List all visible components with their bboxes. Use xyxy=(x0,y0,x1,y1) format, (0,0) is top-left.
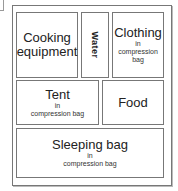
compartment-water: Water xyxy=(81,12,109,78)
compartment-sleeping-bag: Sleeping bag in compression bag xyxy=(16,128,164,178)
tent-label: Tent xyxy=(45,88,70,102)
corner-mark xyxy=(0,0,4,11)
compartment-tent: Tent in compression bag xyxy=(16,80,99,125)
sleeping-bag-label: Sleeping bag xyxy=(52,138,128,152)
tent-note-line1: in xyxy=(55,102,60,110)
cooking-label-line2: equipment xyxy=(17,45,78,59)
sleeping-bag-note-line1: in xyxy=(87,152,92,160)
compartment-cooking-equipment: Cooking equipment xyxy=(16,12,78,78)
compartment-clothing: Clothing in compression bag xyxy=(112,12,164,78)
compartment-food: Food xyxy=(102,80,164,125)
sleeping-bag-note-line2: compression bag xyxy=(63,160,116,168)
clothing-note-line1: in xyxy=(135,40,140,48)
cooking-label-line1: Cooking xyxy=(23,31,71,45)
water-label: Water xyxy=(90,31,100,58)
clothing-note-line3: bag xyxy=(132,56,144,64)
food-label: Food xyxy=(118,96,148,110)
clothing-label: Clothing xyxy=(114,26,162,40)
tent-note-line2: compression bag xyxy=(31,110,84,118)
clothing-note-line2: compression xyxy=(118,48,158,56)
